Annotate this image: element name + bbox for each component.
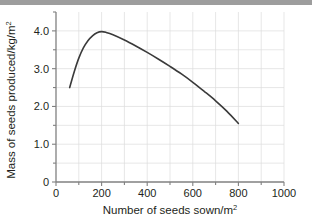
y-axis-title: Mass of seeds produced/kg/m2 <box>4 21 17 179</box>
superscript-two: 2 <box>233 203 237 212</box>
y-tick-label: 0 <box>43 176 49 188</box>
superscript-two: 2 <box>4 21 13 25</box>
x-tick-label: 600 <box>184 187 202 199</box>
x-tick-label: 1000 <box>272 187 296 199</box>
y-tick-label: 2.0 <box>34 100 49 112</box>
y-tick-label: 3.0 <box>34 63 49 75</box>
y-tick-label: 4.0 <box>34 25 49 37</box>
y-axis-tick-labels: 01.02.03.04.0 <box>34 25 49 188</box>
x-tick-label: 800 <box>229 187 247 199</box>
x-tick-label: 0 <box>53 187 59 199</box>
chart-figure: 02004006008001000 01.02.03.04.0 Number o… <box>0 0 312 224</box>
x-tick-label: 400 <box>138 187 156 199</box>
x-tick-label: 200 <box>92 187 110 199</box>
x-axis-title: Number of seeds sown/m2 <box>103 203 238 216</box>
x-axis-tick-labels: 02004006008001000 <box>53 187 296 199</box>
y-tick-label: 1.0 <box>34 138 49 150</box>
seed-yield-line-chart: 02004006008001000 01.02.03.04.0 Number o… <box>0 0 312 224</box>
